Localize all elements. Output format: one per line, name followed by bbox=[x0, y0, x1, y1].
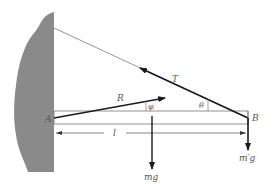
phi-label: φ bbox=[148, 102, 154, 111]
length-label: l bbox=[113, 128, 116, 138]
physics-diagram: T R φ θ A B l mg m′g bbox=[0, 0, 273, 184]
tension-label: T bbox=[172, 74, 179, 84]
theta-label: θ bbox=[199, 101, 204, 110]
load-weight-label: m′g bbox=[239, 153, 256, 163]
tension-arrow bbox=[140, 68, 248, 118]
point-a-label: A bbox=[44, 114, 52, 124]
wall bbox=[14, 12, 54, 172]
beam-weight-label: mg bbox=[144, 172, 159, 182]
reaction-label: R bbox=[116, 93, 124, 103]
point-b-label: B bbox=[251, 113, 259, 123]
